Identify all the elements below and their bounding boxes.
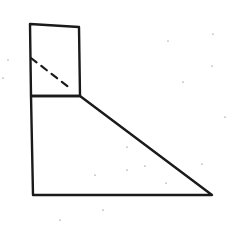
bottom-trapezoid — [31, 96, 212, 195]
speck — [211, 65, 212, 66]
speck — [201, 163, 202, 164]
top-square — [30, 24, 80, 96]
speck — [126, 169, 127, 170]
dashed-diagonal-line — [31, 58, 71, 89]
speck — [144, 165, 145, 166]
speck — [102, 209, 103, 210]
speck — [2, 77, 3, 78]
speck — [165, 182, 166, 183]
speck — [167, 40, 168, 41]
speck — [7, 59, 8, 60]
speck — [224, 116, 225, 117]
diagram-canvas — [0, 0, 230, 225]
speck — [94, 174, 95, 175]
speck — [59, 219, 60, 220]
speck — [212, 33, 213, 34]
speck — [126, 146, 127, 147]
speck — [182, 81, 183, 82]
